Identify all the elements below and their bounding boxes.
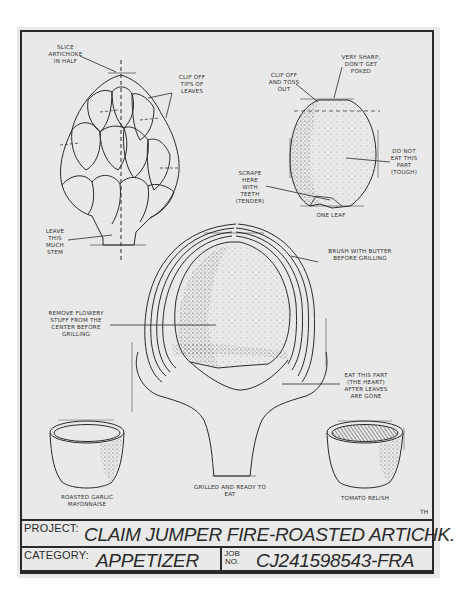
- annotation-leave-stem: Leave this much stem: [40, 228, 70, 256]
- category-value: APPETIZER: [96, 550, 199, 572]
- artist-initials: TH: [420, 508, 428, 515]
- title-block-divider: [220, 546, 222, 574]
- project-value: CLAIM JUMPER FIRE-ROASTED ARTICHK.: [84, 524, 455, 546]
- annotation-one-leaf: One leaf: [306, 212, 356, 219]
- project-label: PROJECT:: [24, 522, 79, 534]
- annotation-clip-tips: Clip off tips of leaves: [172, 74, 212, 95]
- job-number-value: CJ241598543-FRA: [256, 550, 414, 572]
- annotation-slice-half: Slice artichoke in half: [43, 44, 88, 65]
- whole-artichoke-drawing: [60, 56, 180, 262]
- annotation-remove-flowery: Remove flowery stuff from the center bef…: [38, 310, 114, 338]
- tomato-relish-bowl-drawing: [327, 421, 404, 488]
- annotation-brush-butter: Brush with butter before grilling: [320, 248, 400, 262]
- job-label-bottom: NO.: [224, 558, 240, 566]
- category-label: CATEGORY:: [24, 549, 89, 561]
- annotation-scrape-teeth: Scrape here with teeth (tender): [232, 170, 268, 205]
- garlic-mayo-bowl-drawing: [50, 420, 124, 488]
- annotation-do-not-eat: Do not eat this part (tough): [386, 148, 422, 176]
- annotation-tomato-relish: Tomato relish: [330, 495, 400, 502]
- annotation-grilled-ready: Grilled and ready to eat: [178, 484, 282, 498]
- job-number-label: JOB NO.: [224, 550, 240, 566]
- annotation-clip-and-toss: Clip off and toss out: [264, 72, 304, 93]
- annotation-eat-heart: Eat this part (the heart) after leaves a…: [336, 372, 396, 400]
- artichoke-illustration: [0, 0, 461, 603]
- halved-artichoke-drawing: [110, 224, 340, 476]
- annotation-garlic-mayo: Roasted garlic mayonnaise: [52, 494, 122, 508]
- annotation-very-sharp: Very sharp, don't get poked: [336, 54, 386, 75]
